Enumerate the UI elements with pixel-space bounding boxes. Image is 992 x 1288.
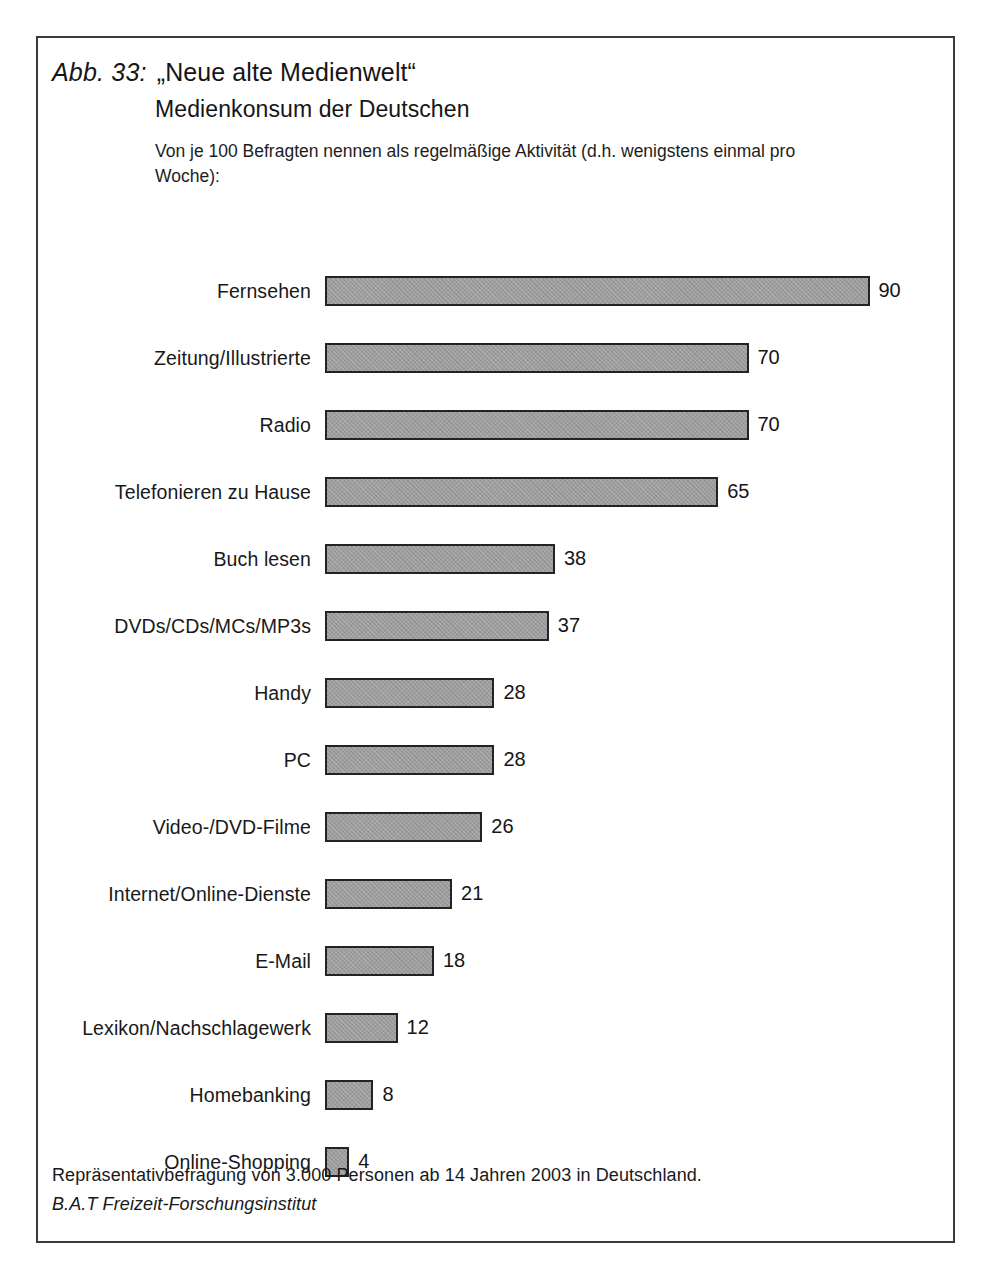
bar-track: 26	[325, 812, 514, 842]
bar-value-label: 70	[758, 346, 780, 369]
bar-track: 21	[325, 879, 483, 909]
bar-row: Video-/DVD-Filme26	[38, 793, 953, 860]
bar	[325, 745, 494, 775]
bar	[325, 812, 482, 842]
bar-category-label: Zeitung/Illustrierte	[154, 346, 311, 369]
bar-value-label: 18	[443, 949, 465, 972]
bar	[325, 410, 749, 440]
bar-track: 65	[325, 477, 750, 507]
bar-value-label: 8	[382, 1083, 393, 1106]
bar	[325, 1013, 398, 1043]
bar-value-label: 70	[758, 413, 780, 436]
bar-track: 90	[325, 276, 901, 306]
bar-category-label: Internet/Online-Dienste	[108, 882, 311, 905]
bar-category-label: Telefonieren zu Hause	[115, 480, 311, 503]
bar-row: Telefonieren zu Hause65	[38, 458, 953, 525]
bar-value-label: 90	[879, 279, 901, 302]
bar	[325, 879, 452, 909]
bar-track: 18	[325, 946, 465, 976]
bar-category-label: Radio	[260, 413, 311, 436]
figure-note: Von je 100 Befragten nennen als regelmäß…	[155, 139, 855, 190]
bar-value-label: 12	[407, 1016, 429, 1039]
bar-value-label: 28	[503, 748, 525, 771]
bar-track: 37	[325, 611, 580, 641]
bar-row: E-Mail18	[38, 927, 953, 994]
bar-value-label: 28	[503, 681, 525, 704]
bar-track: 70	[325, 343, 780, 373]
bar-track: 8	[325, 1080, 394, 1110]
bar-track: 70	[325, 410, 780, 440]
bar-row: Buch lesen38	[38, 525, 953, 592]
bar-track: 28	[325, 678, 526, 708]
bar	[325, 544, 555, 574]
footer-institute: B.A.T Freizeit-Forschungsinstitut	[52, 1194, 939, 1215]
bar-track: 12	[325, 1013, 429, 1043]
bar-row: Fernsehen90	[38, 257, 953, 324]
figure-title: „Neue alte Medienwelt“	[157, 58, 416, 87]
bar-category-label: Homebanking	[190, 1083, 311, 1106]
bar-row: Radio70	[38, 391, 953, 458]
footer-source: Repräsentativbefragung von 3.000 Persone…	[52, 1165, 939, 1186]
bar-row: Homebanking8	[38, 1061, 953, 1128]
bar	[325, 477, 718, 507]
figure-frame: Abb. 33: „Neue alte Medienwelt“ Medienko…	[36, 36, 955, 1243]
bar-track: 28	[325, 745, 526, 775]
figure-subtitle: Medienkonsum der Deutschen	[155, 96, 939, 123]
bar-value-label: 21	[461, 882, 483, 905]
bar-category-label: Handy	[254, 681, 311, 704]
bar-category-label: Lexikon/Nachschlagewerk	[82, 1016, 311, 1039]
bar	[325, 1080, 373, 1110]
bar-row: Zeitung/Illustrierte70	[38, 324, 953, 391]
bar	[325, 276, 870, 306]
bar-track: 38	[325, 544, 586, 574]
bar-row: DVDs/CDs/MCs/MP3s37	[38, 592, 953, 659]
bar-category-label: Buch lesen	[214, 547, 311, 570]
bar-row: Internet/Online-Dienste21	[38, 860, 953, 927]
bar	[325, 946, 434, 976]
bar	[325, 678, 494, 708]
bar-value-label: 38	[564, 547, 586, 570]
bar-category-label: Fernsehen	[217, 279, 311, 302]
figure-header: Abb. 33: „Neue alte Medienwelt“ Medienko…	[52, 58, 939, 190]
bar-category-label: DVDs/CDs/MCs/MP3s	[114, 614, 311, 637]
bar-row: PC28	[38, 726, 953, 793]
bar-category-label: PC	[284, 748, 311, 771]
bar-row: Handy28	[38, 659, 953, 726]
bar-category-label: Video-/DVD-Filme	[153, 815, 311, 838]
bar	[325, 343, 749, 373]
bar-chart: Fernsehen90Zeitung/Illustrierte70Radio70…	[38, 257, 953, 1195]
bar-value-label: 65	[727, 480, 749, 503]
bar-value-label: 26	[491, 815, 513, 838]
bar-row: Lexikon/Nachschlagewerk12	[38, 994, 953, 1061]
figure-title-line: Abb. 33: „Neue alte Medienwelt“	[52, 58, 939, 87]
bar-category-label: E-Mail	[255, 949, 311, 972]
figure-footer: Repräsentativbefragung von 3.000 Persone…	[52, 1165, 939, 1215]
figure-number: Abb. 33:	[52, 58, 147, 87]
bar-value-label: 37	[558, 614, 580, 637]
bar	[325, 611, 549, 641]
